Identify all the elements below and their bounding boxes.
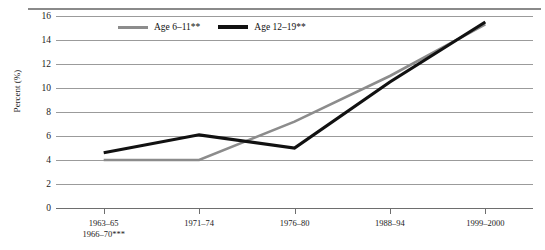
y-axis-tick-label: 16: [29, 11, 51, 21]
x-axis-tick-mark: [485, 208, 486, 214]
x-axis-tick-mark: [199, 208, 200, 214]
x-axis-tick-label-line: 1971–74: [184, 218, 214, 229]
x-axis-tick-label: 1999–2000: [466, 218, 504, 229]
x-axis-tick-label: 1971–74: [184, 218, 214, 229]
legend-label-age-6-11: Age 6–11**: [154, 22, 200, 32]
top-border-rule: [28, 8, 541, 10]
y-axis-tick-label: 8: [29, 107, 51, 117]
y-axis-tick-label: 12: [29, 59, 51, 69]
y-axis-tick-label: 10: [29, 83, 51, 93]
series-lines: [56, 16, 533, 208]
line-chart: Percent (%) 1614121086420 1963–651966–70…: [0, 0, 545, 250]
legend-swatch-age-6-11-icon: [118, 26, 148, 29]
x-axis-tick-mark: [104, 208, 105, 214]
x-axis-tick-label-line: 1999–2000: [466, 218, 504, 229]
x-axis-tick-label-line: 1988–94: [375, 218, 405, 229]
x-axis-tick-label-line: 1963–65: [82, 218, 125, 229]
series-line-age-6-11: [104, 24, 486, 160]
series-line-age-12-19: [104, 22, 486, 153]
y-axis-tick-label: 2: [29, 179, 51, 189]
x-axis-tick-mark: [295, 208, 296, 214]
y-axis-tick-label: 14: [29, 35, 51, 45]
legend-item-age-12-19: Age 12–19**: [218, 22, 305, 32]
chart-legend: Age 6–11** Age 12–19**: [118, 22, 306, 32]
y-axis-label: Percent (%): [12, 41, 22, 141]
y-axis-tick-label: 6: [29, 131, 51, 141]
legend-swatch-age-12-19-icon: [218, 25, 248, 29]
x-axis-tick-label: 1963–651966–70***: [82, 218, 125, 240]
y-axis-tick-label: 4: [29, 155, 51, 165]
x-axis-tick-mark: [390, 208, 391, 214]
legend-label-age-12-19: Age 12–19**: [254, 22, 305, 32]
x-axis-tick-label: 1976–80: [280, 218, 310, 229]
legend-item-age-6-11: Age 6–11**: [118, 22, 200, 32]
x-axis-tick-label-line: 1966–70***: [82, 229, 125, 240]
x-axis-tick-label: 1988–94: [375, 218, 405, 229]
y-axis-tick-label: 0: [29, 203, 51, 213]
x-axis-tick-label-line: 1976–80: [280, 218, 310, 229]
plot-area: 1614121086420 1963–651966–70***1971–7419…: [56, 16, 533, 208]
